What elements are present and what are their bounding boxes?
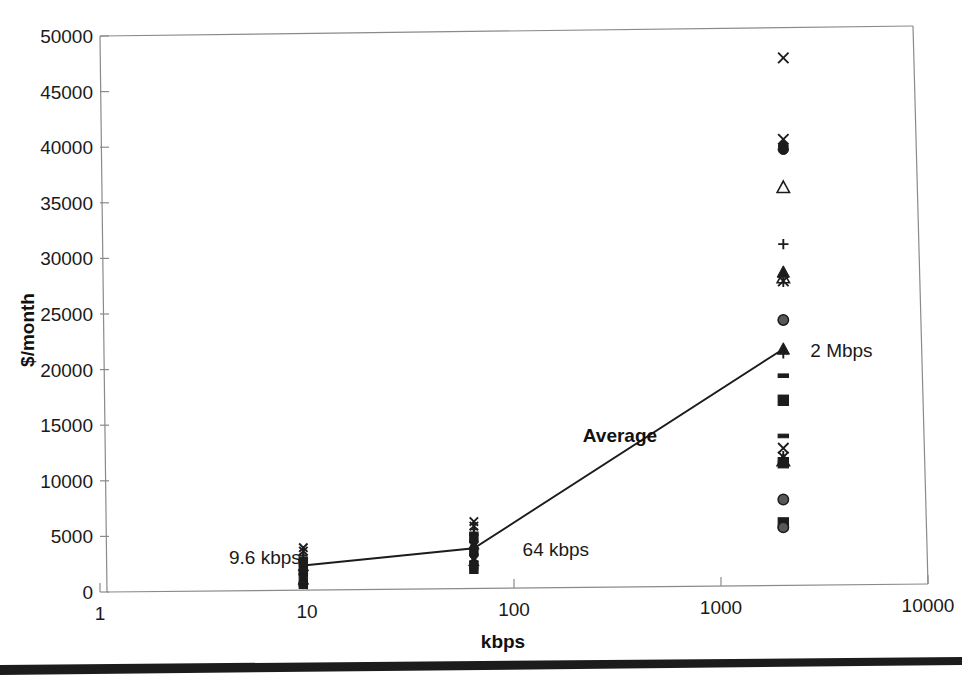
x-tick-label: 10000 [902,595,955,616]
y-tick-label: 25000 [40,304,93,325]
y-tick-label: 10000 [40,471,93,492]
x-axis: 110100100010000 [95,575,955,624]
plot-frame [100,26,928,592]
data-point-marker [470,570,478,574]
y-tick-label: 5000 [51,526,93,547]
data-point-marker [778,374,788,378]
x-tick-label: 1 [95,603,106,624]
y-axis-title: $/month [17,293,38,367]
scatter-cluster [777,53,789,533]
y-tick-label: 50000 [40,26,93,47]
y-tick-label: 35000 [40,193,93,214]
data-point-marker [778,434,788,438]
y-tick-label: 20000 [40,360,93,381]
data-point-marker [778,53,788,63]
y-tick-label: 0 [82,582,93,603]
frame-top-edge [100,26,913,36]
x-tick-label: 10 [296,601,317,622]
average-line-path [303,349,783,566]
chart-annotation-label: 2 Mbps [810,340,872,361]
chart-canvas: 0500010000150002000025000300003500040000… [0,0,962,681]
data-point-marker [777,181,789,192]
data-point-marker [299,585,307,589]
data-point-marker [778,239,788,249]
data-point-marker [778,522,788,532]
chart-annotation-label: Average [583,425,657,446]
x-tick-label: 1000 [700,597,742,618]
chart-figure: 0500010000150002000025000300003500040000… [0,0,962,681]
data-point-marker [778,315,788,325]
data-point-marker [778,275,788,287]
data-point-marker [778,494,788,504]
y-tick-label: 30000 [40,248,93,269]
frame-right-edge [913,26,928,584]
x-axis-title: kbps [481,631,525,652]
chart-annotations: 9.6 kbps64 kbps2 MbpsAverage [229,340,873,569]
data-markers [298,53,789,589]
data-point-marker [778,144,788,154]
chart-annotation-label: 9.6 kbps [229,547,301,568]
x-tick-label: 100 [498,599,530,620]
y-axis: 0500010000150002000025000300003500040000… [40,26,109,603]
bottom-divider-rule [0,657,962,675]
y-tick-label: 15000 [40,415,93,436]
data-point-marker [778,395,788,405]
y-tick-label: 40000 [40,137,93,158]
data-point-marker [778,458,788,468]
chart-annotation-label: 64 kbps [523,539,590,560]
average-series-line [303,349,783,566]
x-axis-line [107,584,928,592]
y-tick-label: 45000 [40,82,93,103]
